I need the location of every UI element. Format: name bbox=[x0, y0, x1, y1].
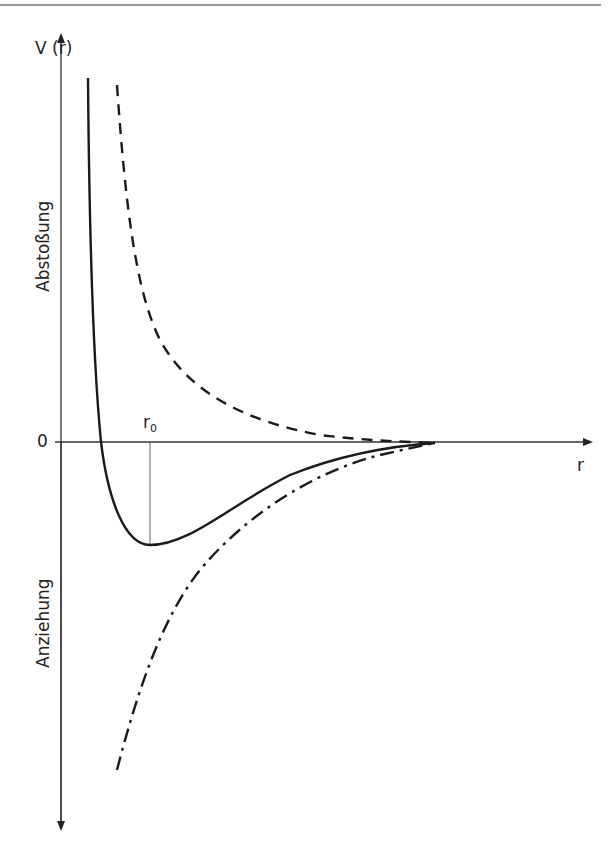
potential-diagram bbox=[0, 0, 611, 862]
total-potential-curve bbox=[88, 78, 435, 545]
zero-label: 0 bbox=[37, 431, 48, 451]
repulsion-label: Abstoßung bbox=[33, 201, 53, 292]
r0-label: r0 bbox=[143, 412, 157, 435]
y-axis-label: V (r) bbox=[35, 38, 72, 58]
x-axis-label: r bbox=[577, 455, 584, 475]
repulsive-potential-curve bbox=[117, 85, 435, 443]
attractive-potential-curve bbox=[117, 443, 435, 770]
attraction-label: Anziehung bbox=[33, 578, 53, 668]
